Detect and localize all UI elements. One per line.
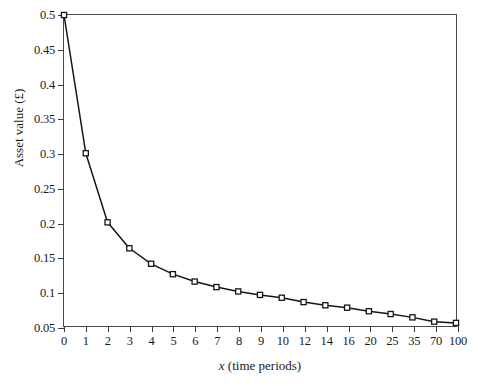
y-axis-title: Asset value (£) (11, 53, 27, 203)
x-tick (195, 326, 196, 332)
x-tick-label: 1 (83, 334, 89, 349)
y-tick-label: 0.3 (40, 147, 55, 162)
data-point-marker (301, 300, 306, 305)
x-tick-label: 0 (61, 334, 67, 349)
data-point-marker (83, 151, 88, 156)
y-tick-label: 0.5 (40, 8, 55, 23)
chart-figure: v = 0.05 + 0.45/(x + 1) 0.050.10.150.20.… (0, 0, 478, 386)
x-tick (173, 326, 174, 332)
x-tick (392, 326, 393, 332)
x-tick (64, 326, 65, 332)
data-point-marker (149, 261, 154, 266)
data-point-marker (366, 309, 371, 314)
y-tick-label: 0.4 (40, 77, 55, 92)
data-point-marker (432, 319, 437, 324)
x-tick-label: 12 (299, 334, 311, 349)
x-tick-label: 14 (321, 334, 333, 349)
x-tick (283, 326, 284, 332)
x-tick-label: 8 (236, 334, 242, 349)
x-tick (261, 326, 262, 332)
x-tick-label: 100 (449, 334, 467, 349)
series-markers (61, 12, 458, 325)
data-point-marker (453, 320, 458, 325)
x-tick (130, 326, 131, 332)
y-tick-label: 0.2 (40, 216, 55, 231)
x-tick (108, 326, 109, 332)
x-tick (458, 326, 459, 332)
x-tick (414, 326, 415, 332)
y-tick-label: 0.15 (34, 251, 55, 266)
x-tick (349, 326, 350, 332)
data-point-marker (192, 279, 197, 284)
data-point-marker (323, 303, 328, 308)
x-tick-label: 7 (214, 334, 220, 349)
x-tick (152, 326, 153, 332)
x-tick-label: 16 (342, 334, 354, 349)
data-point-marker (410, 315, 415, 320)
data-point-marker (388, 311, 393, 316)
y-tick-label: 0.25 (34, 181, 55, 196)
x-tick-label: 70 (430, 334, 442, 349)
x-tick-label: 3 (127, 334, 133, 349)
data-point-marker (214, 285, 219, 290)
x-tick-label: 10 (277, 334, 289, 349)
data-point-marker (279, 295, 284, 300)
x-tick-label: 2 (105, 334, 111, 349)
y-tick-label: 0.05 (34, 321, 55, 336)
data-point-marker (170, 272, 175, 277)
y-tick-label: 0.45 (34, 42, 55, 57)
data-point-marker (236, 289, 241, 294)
x-tick-label: 5 (170, 334, 176, 349)
x-axis-title: x (time periods) (63, 358, 457, 374)
y-tick-label: 0.1 (40, 286, 55, 301)
series-line (64, 15, 456, 323)
x-tick-label: 6 (192, 334, 198, 349)
x-tick (239, 326, 240, 332)
x-tick (436, 326, 437, 332)
x-tick-label: 9 (258, 334, 264, 349)
data-point-marker (105, 220, 110, 225)
x-tick (86, 326, 87, 332)
x-tick (327, 326, 328, 332)
data-point-marker (257, 292, 262, 297)
x-tick-label: 20 (364, 334, 376, 349)
plot-area: 0.050.10.150.20.250.30.350.40.450.5 0123… (63, 14, 457, 327)
data-series-layer (64, 15, 456, 326)
x-tick-label: 35 (408, 334, 420, 349)
data-point-marker (345, 305, 350, 310)
x-tick (370, 326, 371, 332)
y-tick-label: 0.35 (34, 112, 55, 127)
x-tick (217, 326, 218, 332)
x-tick-label: 25 (386, 334, 398, 349)
x-axis-title-text: (time periods) (225, 358, 302, 373)
data-point-marker (127, 246, 132, 251)
x-tick (305, 326, 306, 332)
data-point-marker (61, 12, 66, 17)
x-tick-label: 4 (149, 334, 155, 349)
